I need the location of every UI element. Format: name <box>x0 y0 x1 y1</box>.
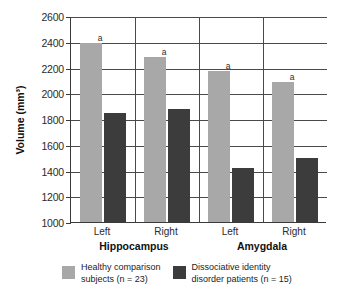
legend-item-did: Dissociative identity disorder patients … <box>173 262 292 296</box>
bar-hippocampus-right-healthy <box>144 57 166 222</box>
y-axis-tick-label: 2000 <box>41 88 64 100</box>
bar-hippocampus-right-did <box>168 109 190 222</box>
y-axis-tick-label: 2200 <box>41 63 64 75</box>
y-axis-tick <box>66 69 71 70</box>
significance-annotation: a <box>162 48 167 57</box>
y-axis-title: Volume (mm³) <box>14 85 26 154</box>
y-axis-tick-label: 1000 <box>41 217 64 229</box>
x-axis-side-label: Right <box>154 226 177 237</box>
plot-area: 100012001400160018002000220024002600aaaa <box>70 17 326 223</box>
bar-amygdala-right-healthy <box>272 82 294 222</box>
x-axis-side-label: Left <box>222 226 239 237</box>
y-axis-title-container: Volume (mm³) <box>16 0 30 240</box>
bar-amygdala-right-did <box>296 158 318 222</box>
category-separator <box>263 17 264 222</box>
y-axis-tick-label: 2400 <box>41 37 64 49</box>
chart-legend: Healthy comparison subjects (n = 23) Dis… <box>62 262 340 296</box>
x-axis-side-label: Left <box>94 226 111 237</box>
legend-swatch-healthy-icon <box>62 266 75 279</box>
y-axis-tick <box>66 17 71 18</box>
x-axis-group-label-hippocampus: Hippocampus <box>99 240 168 252</box>
y-axis-tick <box>66 172 71 173</box>
category-separator <box>135 17 136 222</box>
y-axis-tick-label: 1600 <box>41 140 64 152</box>
y-axis-tick <box>66 120 71 121</box>
legend-swatch-did-icon <box>173 266 186 279</box>
legend-label-did: Dissociative identity disorder patients … <box>192 262 292 285</box>
bar-hippocampus-left-did <box>104 113 126 222</box>
y-axis-tick <box>66 197 71 198</box>
significance-annotation: a <box>98 34 103 43</box>
x-axis-side-label: Right <box>282 226 305 237</box>
y-axis-tick <box>66 94 71 95</box>
y-axis-tick-label: 1800 <box>41 114 64 126</box>
y-axis-tick <box>66 223 71 224</box>
bar-hippocampus-left-healthy <box>80 43 102 222</box>
y-axis-tick <box>66 43 71 44</box>
y-axis-tick-label: 1200 <box>41 191 64 203</box>
cropped-caption <box>6 0 256 5</box>
y-axis-tick-label: 1400 <box>41 166 64 178</box>
bar-amygdala-left-healthy <box>208 71 230 222</box>
significance-annotation: a <box>226 62 231 71</box>
legend-label-healthy: Healthy comparison subjects (n = 23) <box>81 262 161 285</box>
x-axis-group-label-amygdala: Amygdala <box>237 240 287 252</box>
chart-figure: Volume (mm³) 100012001400160018002000220… <box>0 0 342 299</box>
bar-amygdala-left-did <box>232 168 254 222</box>
y-axis-tick <box>66 146 71 147</box>
category-separator <box>199 17 200 222</box>
y-axis-tick-label: 2600 <box>41 11 64 23</box>
legend-item-healthy: Healthy comparison subjects (n = 23) <box>62 262 161 296</box>
significance-annotation: a <box>290 73 295 82</box>
